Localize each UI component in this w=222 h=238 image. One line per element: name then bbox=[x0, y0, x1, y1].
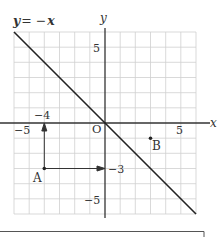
x-axis-label: x bbox=[210, 116, 217, 130]
tick-x-neg5: −5 bbox=[14, 124, 30, 137]
tick-y-5: 5 bbox=[93, 42, 100, 55]
tick-y-neg5: −5 bbox=[84, 194, 100, 207]
answer-box-edge bbox=[0, 232, 204, 238]
a-y-value-label: −3 bbox=[108, 163, 124, 176]
equation-label: y= −x bbox=[12, 13, 55, 28]
coordinate-graph: y= −x y x O 5 −5 −5 5 −4 −3 A B bbox=[0, 0, 222, 237]
tick-x-5: 5 bbox=[176, 124, 183, 137]
point-b-label: B bbox=[152, 139, 161, 153]
a-x-value-label: −4 bbox=[34, 109, 50, 122]
origin-label: O bbox=[92, 122, 101, 136]
point-a bbox=[43, 167, 47, 171]
y-axis-label: y bbox=[99, 11, 107, 25]
point-a-label: A bbox=[32, 171, 42, 185]
